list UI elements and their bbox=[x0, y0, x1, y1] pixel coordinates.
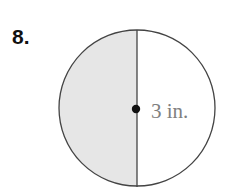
shaded-half bbox=[59, 30, 137, 186]
radius-label: 3 in. bbox=[151, 99, 188, 123]
circle-figure: 3 in. bbox=[0, 0, 231, 187]
center-point bbox=[132, 105, 140, 113]
